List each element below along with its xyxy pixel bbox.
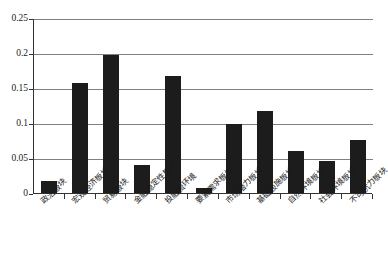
x-axis-tick-mark — [64, 194, 65, 199]
y-axis-tick-label: 0.15 — [0, 84, 28, 94]
gridline — [34, 54, 373, 55]
y-axis-tick-label: 0.25 — [0, 14, 28, 24]
bar — [72, 83, 88, 193]
y-axis-tick-label: 0.2 — [0, 49, 28, 59]
x-axis-tick-mark — [372, 194, 373, 199]
x-axis-tick-mark — [280, 194, 281, 199]
gridline — [34, 19, 373, 20]
y-axis-tick-label: 0 — [0, 189, 28, 199]
y-axis-tick-label: 0.05 — [0, 154, 28, 164]
x-axis-tick-mark — [218, 194, 219, 199]
x-axis-tick-mark — [125, 194, 126, 199]
x-axis-tick-mark — [310, 194, 311, 199]
x-axis-tick-mark — [249, 194, 250, 199]
y-axis-tick-mark — [29, 194, 33, 195]
x-axis-tick-mark — [156, 194, 157, 199]
bar — [257, 111, 273, 193]
x-axis-tick-mark — [95, 194, 96, 199]
x-axis-tick-mark — [341, 194, 342, 199]
y-axis-tick-label: 0.1 — [0, 119, 28, 129]
x-axis-tick-mark — [187, 194, 188, 199]
